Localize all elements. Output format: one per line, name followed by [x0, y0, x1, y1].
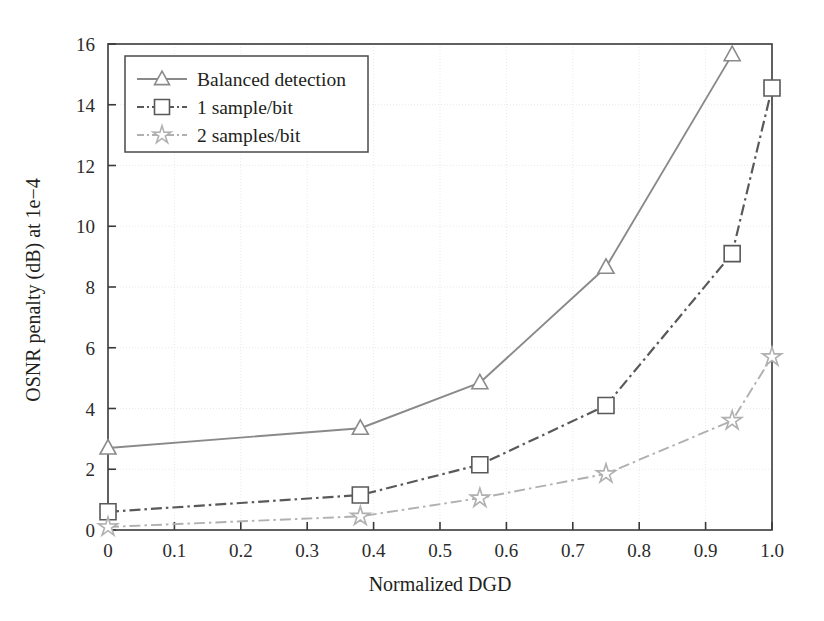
- legend-label: 1 sample/bit: [197, 97, 293, 118]
- x-axis-title: Normalized DGD: [369, 573, 512, 595]
- legend-marker: [155, 100, 170, 115]
- x-tick-label: 0.3: [295, 540, 319, 561]
- legend-label: 2 samples/bit: [197, 125, 301, 146]
- x-tick-label: 0.4: [362, 540, 386, 561]
- data-point-marker: [352, 487, 368, 503]
- data-point-marker: [724, 246, 740, 262]
- x-tick-label: 0.2: [229, 540, 253, 561]
- x-tick-label: 0.1: [163, 540, 187, 561]
- legend-label: Balanced detection: [197, 69, 346, 90]
- y-tick-label: 4: [86, 399, 96, 420]
- y-tick-label: 14: [76, 95, 96, 116]
- y-tick-label: 16: [76, 34, 95, 55]
- chart-background: [0, 0, 824, 621]
- y-tick-label: 2: [86, 459, 96, 480]
- x-tick-label: 0.8: [627, 540, 651, 561]
- x-tick-label: 1.0: [760, 540, 784, 561]
- x-tick-label: 0.5: [428, 540, 452, 561]
- x-tick-label: 0.7: [561, 540, 585, 561]
- osnr-penalty-line-chart: 00.10.20.30.40.50.60.70.80.91.0024681012…: [0, 0, 824, 621]
- y-tick-label: 0: [86, 520, 96, 541]
- data-point-marker: [764, 80, 780, 96]
- y-tick-label: 6: [86, 338, 96, 359]
- legend: Balanced detection1 sample/bit2 samples/…: [125, 56, 368, 152]
- data-point-marker: [472, 457, 488, 473]
- x-tick-label: 0: [103, 540, 113, 561]
- x-tick-label: 0.9: [694, 540, 718, 561]
- x-tick-label: 0.6: [495, 540, 519, 561]
- y-tick-label: 8: [86, 277, 96, 298]
- y-tick-label: 10: [76, 216, 95, 237]
- y-axis-title: OSNR penalty (dB) at 1e−4: [22, 178, 45, 401]
- chart-figure: 00.10.20.30.40.50.60.70.80.91.0024681012…: [0, 0, 824, 621]
- y-tick-label: 12: [76, 156, 95, 177]
- data-point-marker: [598, 397, 614, 413]
